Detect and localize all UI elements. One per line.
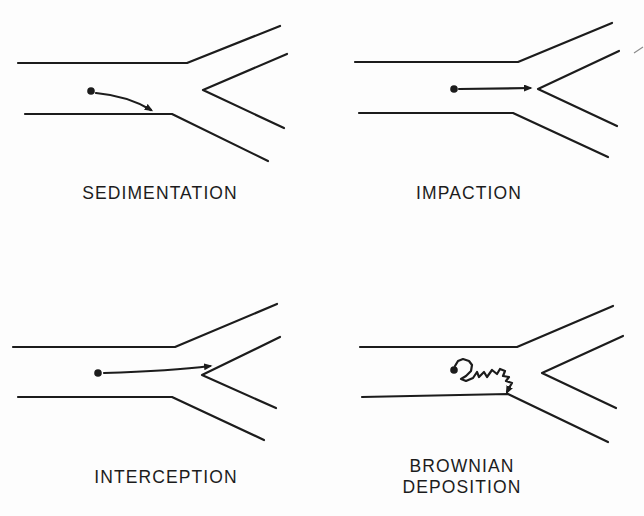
label-brownian-deposition: BROWNIAN DEPOSITION — [403, 456, 522, 498]
panel-sedimentation — [18, 26, 287, 161]
label-impaction: IMPACTION — [416, 183, 522, 204]
impaction-airway-carina — [538, 51, 619, 126]
label-interception: INTERCEPTION — [94, 467, 237, 488]
panel-brownian-deposition — [360, 306, 623, 442]
sedimentation-trajectory-arrow — [96, 93, 151, 110]
sedimentation-airway-top-wall — [18, 26, 280, 63]
brownian-deposition-airway-bottom-wall — [362, 394, 608, 442]
interception-airway-carina — [202, 337, 280, 408]
diagram-canvas — [0, 0, 644, 516]
sedimentation-airway-carina — [203, 54, 287, 128]
impaction-airway-bottom-wall — [359, 113, 608, 157]
sedimentation-airway-bottom-wall — [25, 114, 268, 161]
panel-interception — [13, 304, 280, 440]
interception-particle-dot — [94, 369, 102, 377]
brownian-deposition-airway-carina — [542, 336, 623, 408]
interception-airway-bottom-wall — [18, 397, 264, 440]
brownian-deposition-particle-dot — [450, 366, 458, 374]
label-sedimentation: SEDIMENTATION — [82, 183, 238, 204]
particle-deposition-mechanisms-figure: SEDIMENTATION IMPACTION INTERCEPTION BRO… — [0, 0, 644, 516]
impaction-trajectory-arrow — [459, 88, 530, 89]
brownian-deposition-trajectory-arrow — [455, 359, 512, 392]
brownian-deposition-airway-top-wall — [360, 306, 613, 347]
panel-impaction — [355, 23, 643, 157]
impaction-particle-dot — [450, 85, 458, 93]
interception-trajectory-arrow — [104, 366, 210, 373]
interception-airway-top-wall — [13, 304, 277, 347]
sedimentation-particle-dot — [87, 87, 95, 95]
impaction-stray-mark — [634, 47, 643, 53]
impaction-airway-top-wall — [355, 23, 612, 62]
